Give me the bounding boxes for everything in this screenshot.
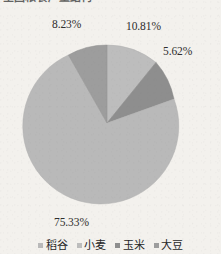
- chart-legend: 稻谷 小麦 玉米 大豆: [0, 236, 221, 254]
- legend-item-yumi[interactable]: 玉米: [115, 239, 145, 252]
- legend-swatch-icon: [77, 243, 82, 248]
- data-label-dadou: 8.23%: [52, 18, 81, 30]
- legend-label-dadou: 大豆: [161, 239, 183, 252]
- legend-item-xiaomai[interactable]: 小麦: [77, 239, 107, 252]
- legend-item-dadou[interactable]: 大豆: [154, 239, 184, 252]
- legend-label-yumi: 玉米: [123, 239, 145, 252]
- pie-chart-figure: 全国粮食产量结构 8.23% 10.81% 5.62% 75.33% 稻谷 小麦: [0, 0, 221, 254]
- pie-plot-area: [0, 0, 221, 254]
- data-label-daogu: 75.33%: [54, 216, 89, 228]
- legend-item-daogu[interactable]: 稻谷: [38, 239, 68, 252]
- pie-svg: [0, 0, 221, 254]
- legend-swatch-icon: [154, 243, 159, 248]
- legend-label-xiaomai: 小麦: [84, 239, 106, 252]
- legend-swatch-icon: [115, 243, 120, 248]
- legend-label-daogu: 稻谷: [46, 239, 68, 252]
- data-label-yumi: 5.62%: [163, 45, 192, 57]
- legend-swatch-icon: [38, 243, 43, 248]
- data-label-xiaomai: 10.81%: [126, 20, 161, 32]
